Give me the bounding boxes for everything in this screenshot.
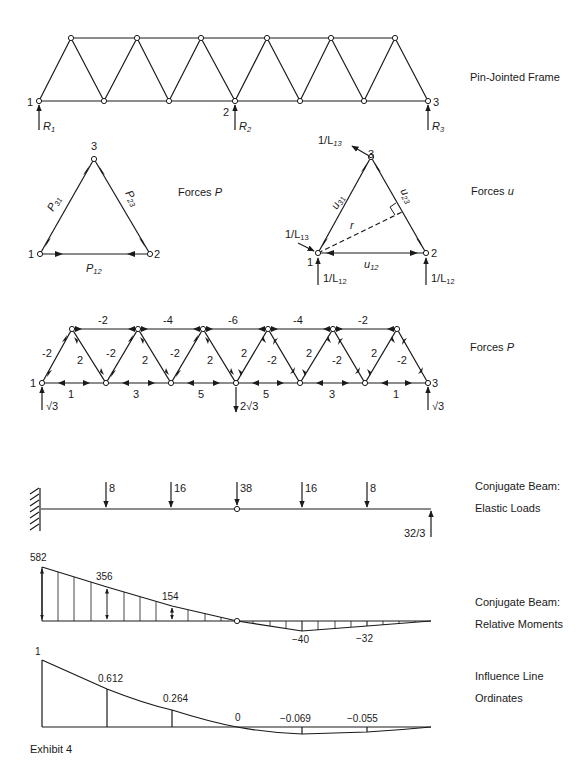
bottom-chord-force: 3 [329,388,335,400]
forces-p-truss-title: Forces P [470,341,515,353]
forces-p-arrows [45,166,145,257]
diagonal-force: -2 [332,354,342,366]
frame-reactions [39,105,428,130]
fixed-support [30,488,40,531]
elastic-loads-title-1: Conjugate Beam: [475,480,560,492]
bottom-chord-force: 5 [198,388,204,400]
diagonal-force: 2 [306,347,312,359]
moment-hinge [234,618,239,623]
bottom-chord-force: 5 [263,388,269,400]
influence-ordinate: 1 [35,646,41,657]
elastic-loads-title-2: Elastic Loads [475,502,541,514]
member-p31: P31 [44,193,64,214]
truss-node-1: 1 [30,377,36,389]
u-node-3: 3 [368,148,374,160]
moment-value: 356 [96,571,113,582]
p-node-3: 3 [91,140,97,152]
frame-node-1: 1 [27,96,33,108]
bottom-chord-force: 3 [133,388,139,400]
member-u12: u12 [364,258,379,272]
conjugate-reaction: 32/3 [404,527,425,539]
structural-diagram: 1 2 3 R1 R2 R3 Pin-Jointed Frame 1 2 3 P… [0,0,581,774]
moments-title-1: Conjugate Beam: [475,596,560,608]
diagonal-force: 2 [241,347,247,359]
forces-u-loads [298,146,426,285]
load-bottom-left-label: 1/L12 [323,272,347,286]
bottom-chord-force: 1 [393,388,399,400]
reaction-r1: R1 [43,120,55,134]
top-chord-force: -4 [293,314,303,326]
p-node-1: 1 [28,248,34,260]
reaction-r3: R3 [432,120,445,134]
truss-reaction-middle: 2√3 [240,400,258,412]
member-u31: u31 [328,192,347,212]
diagonal-force: -2 [397,354,407,366]
moment-value: −40 [292,634,309,645]
diagonal-force: -2 [267,354,277,366]
frame-joints [36,35,430,103]
p-node-2: 2 [154,248,160,260]
reaction-r2: R2 [239,120,252,134]
moment-value: 582 [30,552,47,563]
influence-ordinate: 0.612 [98,673,123,684]
forces-u-title: Forces u [471,185,514,197]
elastic-load-value: 16 [305,482,317,494]
influence-ordinate: −0.055 [347,713,378,724]
lever-arm-r: r [350,219,355,231]
u-node-1: 1 [307,256,313,268]
u-node-2: 2 [431,247,437,259]
bottom-chord-force: 1 [68,388,74,400]
frame-node-3: 3 [433,96,439,108]
elastic-load-value: 38 [240,482,252,494]
member-u23: u23 [397,186,417,206]
exhibit-caption: Exhibit 4 [30,743,72,755]
diagonal-force: 2 [142,354,148,366]
moments-title-2: Relative Moments [475,618,564,630]
member-p12: P12 [86,262,103,276]
diagonal-force: -2 [170,347,180,359]
member-p23: P23 [122,188,142,209]
top-chord-force: -4 [163,314,173,326]
influence-title-2: Ordinates [475,692,523,704]
influence-ordinate: 0 [235,712,241,723]
truss-reaction-right: √3 [432,400,444,412]
top-chord-force: -2 [358,314,368,326]
moment-value: −32 [356,633,373,644]
truss-node-3: 3 [432,377,438,389]
moment-value: 154 [162,591,179,602]
top-chord-force: -6 [228,314,238,326]
diagonal-force: -2 [42,347,52,359]
elastic-load-value: 8 [109,482,115,494]
diagonal-force: -2 [106,347,116,359]
load-left-label: 1/L13 [285,228,309,242]
top-chord-force: -2 [98,314,108,326]
frame-node-2: 2 [223,106,229,118]
load-bottom-right-label: 1/L12 [431,272,455,286]
diagonal-force: 2 [207,354,213,366]
beam-hinge [234,506,239,511]
influence-ordinate: −0.069 [280,713,311,724]
frame-title: Pin-Jointed Frame [470,71,560,83]
load-top-label: 1/L13 [318,134,342,148]
truss-reaction-left: √3 [46,400,58,412]
elastic-load-value: 8 [370,482,376,494]
influence-title-1: Influence Line [475,670,544,682]
diagonal-force: 2 [371,347,377,359]
truss-reactions [42,387,428,412]
influence-ordinate: 0.264 [163,693,188,704]
diagonal-force: 2 [77,354,83,366]
elastic-load-value: 16 [174,482,186,494]
forces-p-title: Forces P [178,186,223,198]
pin-jointed-frame [39,38,428,101]
truss-member-arrows [47,326,423,386]
